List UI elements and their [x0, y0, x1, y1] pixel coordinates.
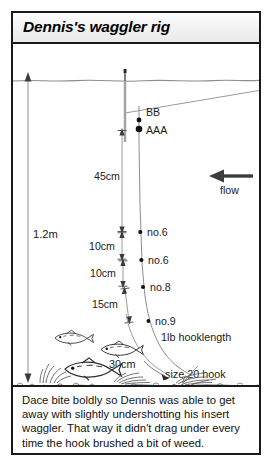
depth-label: 1.2m	[33, 228, 58, 240]
shot-no9-label: no.9	[155, 315, 176, 327]
page-title: Dennis's waggler rig	[23, 18, 170, 36]
caption-text: Dace bite boldly so Dennis was able to g…	[22, 393, 251, 450]
shot-bb	[137, 118, 142, 123]
weed-clump-left	[40, 364, 71, 383]
shot-no6-second	[139, 258, 143, 262]
shot-no6-first	[138, 230, 142, 234]
gap-10b-dimension	[119, 259, 128, 289]
shot-no6-second-label: no.6	[148, 254, 169, 266]
shot-no9	[147, 319, 151, 323]
gap-30-label: 30cm	[109, 358, 135, 370]
shot-aaa	[136, 126, 143, 133]
gap-10a-dimension	[118, 231, 127, 262]
shot-no8	[141, 285, 145, 289]
depth-dimension	[25, 72, 32, 383]
rig-svg: 1.2m BB AAA	[13, 44, 259, 389]
gap-10b-label: 10cm	[90, 267, 116, 279]
caption-block: Dace bite boldly so Dennis was able to g…	[13, 385, 259, 453]
rig-diagram-canvas: 1.2m BB AAA	[13, 44, 259, 389]
rig-diagram-panel: Dennis's waggler rig 1.2m	[11, 11, 261, 455]
shot-aaa-label: AAA	[146, 124, 168, 136]
fish-dace-2	[101, 341, 143, 358]
fish-dace-1	[55, 330, 94, 345]
panel-title-bar: Dennis's waggler rig	[13, 13, 259, 44]
hooklength-label: 1lb hooklength	[161, 331, 231, 343]
shot-no8-label: no.8	[150, 281, 171, 293]
gap-15-label: 15cm	[92, 298, 118, 310]
gap-30-leader	[144, 361, 165, 376]
shot-bb-label: BB	[146, 106, 160, 118]
flow-arrow-icon	[209, 170, 253, 183]
waggler-float	[124, 69, 127, 142]
shot-no6-first-label: no.6	[147, 226, 168, 238]
water-surface-line	[13, 80, 259, 81]
flow-label: flow	[220, 184, 239, 196]
gap-10a-label: 10cm	[89, 240, 115, 252]
gap-45-label: 45cm	[94, 170, 120, 182]
